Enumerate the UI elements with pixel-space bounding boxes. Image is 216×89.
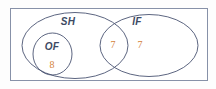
set-label-sh: SH	[61, 16, 76, 27]
set-label-of: OF	[45, 41, 60, 52]
value-of-only: 8	[50, 59, 55, 70]
value-if-only: 7	[138, 39, 143, 50]
value-sh-and-if: 7	[111, 39, 116, 50]
set-label-if: IF	[132, 16, 142, 27]
venn-diagram-screenshot: SH IF OF 8 7 7	[0, 0, 216, 89]
venn-diagram-canvas: SH IF OF 8 7 7	[0, 0, 216, 89]
